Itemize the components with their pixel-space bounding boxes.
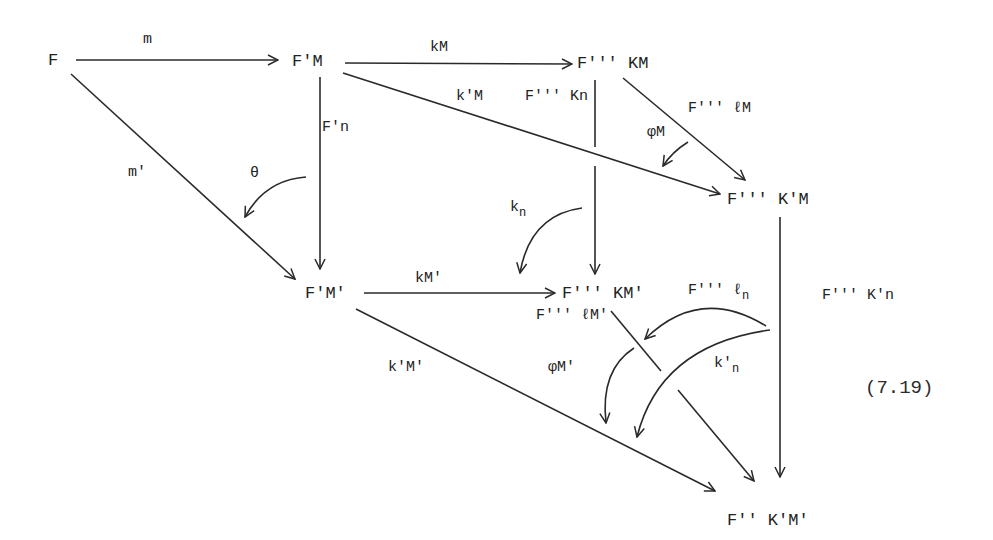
label-kM-prime: kM' [415, 271, 442, 286]
arrow-kM [345, 63, 572, 64]
node-F3-K-prime-M: F''' K'M [727, 191, 809, 208]
label-phiM: φM [647, 125, 665, 140]
label-kM: kM [430, 40, 448, 55]
label-F3-K-prime-n: F''' K'n [822, 288, 894, 303]
label-kn-sub: n [519, 206, 526, 220]
label-F3-ln-base: F''' ℓ [688, 282, 742, 299]
label-m-prime: m' [128, 165, 146, 180]
label-F-prime-n: F'n [322, 120, 349, 135]
arrow-theta [245, 177, 306, 217]
label-k-prime-M-prime: k'M' [388, 360, 424, 375]
label-kn-base: k [510, 199, 519, 216]
label-F3-ln-sub: n [742, 289, 749, 303]
arrow-F3lM [623, 78, 745, 180]
commutative-diagram: F F'M F''' KM F''' K'M F'M' F''' KM' F''… [0, 0, 993, 540]
equation-number: (7.19) [865, 377, 933, 399]
label-theta: θ [250, 166, 259, 181]
label-k-prime-M: k'M [456, 89, 483, 104]
label-F3-Kn: F''' Kn [525, 89, 588, 104]
label-phiM-prime: φM' [548, 360, 575, 375]
node-F: F [48, 52, 58, 69]
node-F3-KM: F''' KM [577, 55, 648, 72]
arrow-phiMp [605, 348, 634, 423]
label-F3-lM: F''' ℓM [688, 101, 751, 116]
arrow-F3lMp-bottom [678, 390, 754, 481]
node-F-prime-M: F'M [292, 53, 323, 70]
label-F3-lM-prime: F''' ℓM' [536, 308, 608, 323]
arrow-m-prime [71, 74, 295, 279]
label-m: m [143, 32, 152, 47]
label-kn: kn [510, 200, 526, 219]
label-F3-ln: F''' ℓn [688, 283, 749, 302]
node-F3-KM-prime: F''' KM' [562, 285, 644, 302]
label-knp-sub: n [732, 362, 739, 376]
label-knp-base: k' [714, 355, 732, 372]
node-F3-K-prime-M-prime: F'' K'M' [727, 512, 809, 529]
label-k-prime-n: k'n [714, 356, 739, 375]
arrows-layer [0, 0, 993, 540]
arrow-k-prime-M-prime [356, 309, 715, 491]
arrow-phiM [663, 142, 688, 166]
arrow-kn [520, 208, 582, 273]
node-F-prime-M-prime: F'M' [305, 285, 346, 302]
